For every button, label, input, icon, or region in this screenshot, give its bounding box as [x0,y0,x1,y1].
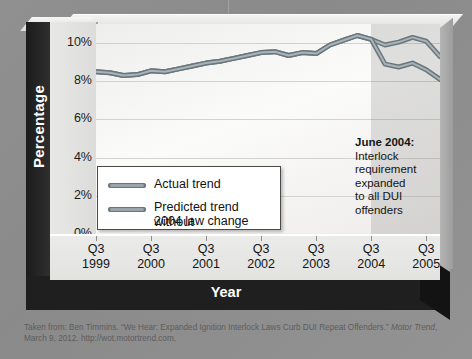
x-tick-quarter: Q3 [234,242,288,257]
y-axis-tick-label: 6% [74,111,92,125]
x-tick-year: 1999 [69,257,123,272]
annotation-june-2004: June 2004: Interlock requirement expande… [355,136,451,218]
x-tick-year: 2002 [234,257,288,272]
x-axis-tickmark [206,236,207,241]
annotation-line-1: Interlock [355,150,398,162]
x-axis-title: Year [26,284,426,300]
x-tick-quarter: Q3 [289,242,343,257]
chart-figure: Percentage 10%8%6%4%2%0% Actual trend Pr… [0,0,472,359]
x-tick-quarter: Q3 [69,242,123,257]
x-axis-tickmark [316,236,317,241]
x-tick-quarter: Q3 [344,242,398,257]
y-axis-tick-label: 8% [74,73,92,87]
annotation-line-2: requirement [355,163,416,175]
x-tick-year: 2001 [179,257,233,272]
x-axis-tick-label: Q32005 [399,242,453,272]
x-axis-tickmark [426,236,427,241]
x-tick-quarter: Q3 [124,242,178,257]
caption-line-1b: , [435,323,437,332]
x-axis-tick-label: Q32002 [234,242,288,272]
x-tick-year: 2005 [399,257,453,272]
annotation-line-3: expanded [355,177,406,189]
scan-artifact-1 [228,0,229,20]
legend-label-actual: Actual trend [154,177,221,192]
x-axis-tickmark [96,236,97,241]
caption-line-1a: Taken from: Ben Timmins. “We Hear: Expan… [24,323,391,332]
y-axis-title: Percentage [30,51,47,203]
x-axis-tick-label: Q32000 [124,242,178,272]
y-axis-tick-label: 10% [67,35,92,49]
y-axis-title-bar: Percentage [26,22,50,276]
source-caption: Taken from: Ben Timmins. “We Hear: Expan… [24,322,454,344]
x-tick-year: 2004 [344,257,398,272]
legend-swatch-actual-inner [110,184,144,187]
legend: Actual trend Predicted trend without 200… [97,166,281,230]
caption-line-2: March 9, 2012. http://wot.motortrend.com… [24,334,176,343]
caption-publication: Motor Trend [391,323,435,332]
x-axis-tick-label: Q31999 [69,242,123,272]
x-tick-quarter: Q3 [399,242,453,257]
x-axis-tickmark [261,236,262,241]
x-axis-tick-label: Q32003 [289,242,343,272]
x-tick-year: 2000 [124,257,178,272]
x-axis-tick-panel: Q31999Q32000Q32001Q32002Q32003Q32004Q320… [50,234,440,280]
x-axis-tickmark [371,236,372,241]
x-axis-tick-label: Q32004 [344,242,398,272]
x-axis-tickmark [151,236,152,241]
legend-swatch-predicted [108,207,146,212]
y-axis-tick-label: 2% [74,188,92,202]
x-tick-year: 2003 [289,257,343,272]
annotation-line-5: offenders [355,204,403,216]
annotation-line-4: to all DUI [355,190,402,202]
legend-swatch-predicted-inner [110,208,144,211]
x-axis-tick-label: Q32001 [179,242,233,272]
x-tick-quarter: Q3 [179,242,233,257]
annotation-heading: June 2004: [355,136,451,150]
legend-label-predicted-line2: 2004 law change [154,214,249,229]
legend-swatch-actual [108,183,146,188]
y-axis-tick-label: 4% [74,150,92,164]
